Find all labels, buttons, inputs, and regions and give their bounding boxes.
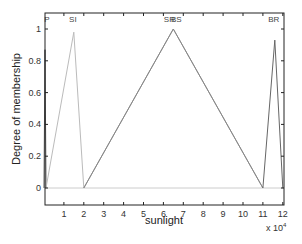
x-tick-label: 12 bbox=[278, 209, 288, 219]
y-axis-label: Degree of membership bbox=[10, 53, 22, 165]
x-tick-label: 4 bbox=[121, 209, 126, 219]
y-tick-label: 0.8 bbox=[28, 56, 41, 66]
x-tick-label: 1 bbox=[61, 209, 66, 219]
x-tick-label: 11 bbox=[258, 209, 267, 219]
y-tick-label: 0.2 bbox=[28, 151, 41, 161]
membership-function-chart: PSISRBSBR 12345678910111200.20.40.60.81 … bbox=[0, 0, 302, 244]
y-tick-label: 0.4 bbox=[28, 119, 41, 129]
mf-label-si: SI bbox=[69, 15, 77, 24]
x-axis-label: sunlight bbox=[145, 214, 183, 226]
x-tick-label: 8 bbox=[201, 209, 206, 219]
y-tick-label: 0.6 bbox=[28, 88, 41, 98]
x-tick-label: 9 bbox=[221, 209, 226, 219]
y-tick-label: 1 bbox=[36, 24, 41, 34]
mf-label-br: BR bbox=[268, 15, 279, 24]
x-tick-label: 10 bbox=[238, 209, 248, 219]
x-tick-label: 3 bbox=[101, 209, 106, 219]
mf-label-bs: BS bbox=[171, 15, 182, 24]
y-tick-label: 0 bbox=[36, 183, 41, 193]
x-tick-label: 2 bbox=[81, 209, 86, 219]
